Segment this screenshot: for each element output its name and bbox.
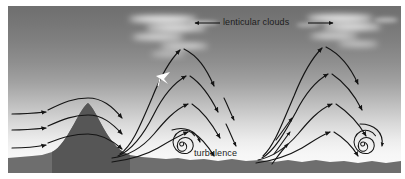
illustration-plate: lenticular clouds turbulence — [8, 6, 401, 173]
descending-feeder-arrows — [224, 98, 236, 146]
turbulence-label: turbulence — [194, 149, 237, 158]
glider-icon — [156, 72, 170, 86]
lenticular-clouds-label: lenticular clouds — [223, 18, 289, 27]
vortex-inflow-arrow — [360, 124, 382, 146]
wave-streamlines-crest2-up — [112, 50, 188, 162]
wave-streamlines-crest3-down — [326, 47, 366, 156]
lee-wave-diagram: lenticular clouds turbulence — [0, 0, 405, 179]
lenticular-clouds-right — [307, 15, 381, 47]
wave-streamlines-crest3-up — [256, 48, 332, 163]
inflow-streamlines — [12, 112, 46, 148]
vortex-right — [354, 124, 382, 154]
wave-streamlines-crest2-down — [184, 49, 220, 156]
